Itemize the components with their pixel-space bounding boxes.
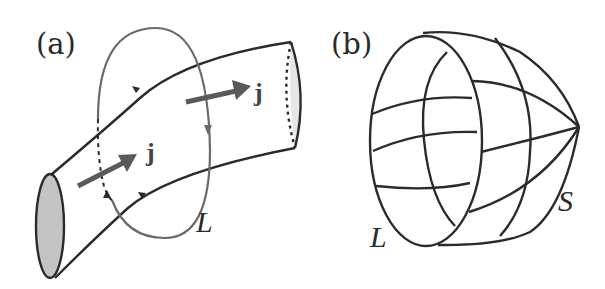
panel-b-label: (b) — [331, 30, 372, 59]
loop-label-L: L — [370, 222, 387, 252]
figure: (a) j j L (b) L S — [0, 0, 605, 289]
surface-label-S: S — [558, 186, 573, 216]
loop-L-ellipse — [370, 36, 482, 246]
panel-b-drawing — [0, 0, 605, 289]
